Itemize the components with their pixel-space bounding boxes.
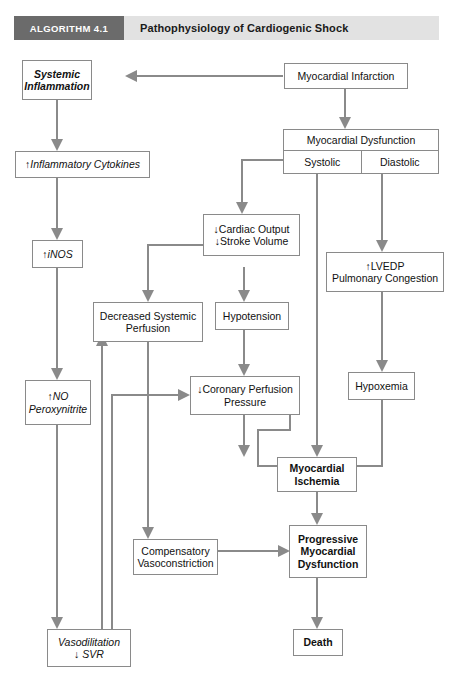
node-hypotension[interactable]: Hypotension xyxy=(215,302,289,330)
node-death[interactable]: Death xyxy=(293,629,343,656)
node-inflammatory-cytokines[interactable]: ↑Inflammatory Cytokines xyxy=(15,151,150,178)
flow-connectors xyxy=(0,0,456,673)
node-line: ↑NO xyxy=(48,390,69,402)
cell-diastolic[interactable]: Diastolic xyxy=(362,151,439,173)
node-line: Myocardial xyxy=(290,462,345,474)
node-line: ↓ SVR xyxy=(74,648,104,660)
node-lvedp-pulmonary-congestion[interactable]: ↑LVEDP Pulmonary Congestion xyxy=(326,252,444,292)
node-myocardial-infarction[interactable]: Myocardial Infarction xyxy=(284,63,408,89)
node-line: Vasodilitation xyxy=(58,636,120,648)
myocardial-dysfunction-title: Myocardial Dysfunction xyxy=(284,130,438,151)
node-line: ↓Cardiac Output xyxy=(214,223,290,235)
node-decreased-systemic-perfusion[interactable]: Decreased Systemic Perfusion xyxy=(93,302,203,342)
node-line: ↓Coronary Perfusion xyxy=(197,383,293,395)
node-line: Pulmonary Congestion xyxy=(332,272,438,284)
node-line: Hypotension xyxy=(223,310,281,322)
node-line: Systemic xyxy=(34,68,80,80)
node-line: Death xyxy=(303,636,332,648)
node-line: ↑LVEDP xyxy=(366,260,405,272)
node-line: ↓Stroke Volume xyxy=(215,235,289,247)
node-progressive-myocardial-dysfunction[interactable]: Progressive Myocardial Dysfunction xyxy=(289,525,367,578)
node-inos[interactable]: ↑iNOS xyxy=(32,240,83,268)
node-line: ↑Inflammatory Cytokines xyxy=(25,158,140,170)
node-line: Inflammation xyxy=(24,80,89,92)
node-line: Myocardial xyxy=(301,545,356,557)
node-line: Vasoconstriction xyxy=(137,557,213,569)
figure-header: ALGORITHM 4.1 Pathophysiology of Cardiog… xyxy=(14,16,439,40)
cell-systolic[interactable]: Systolic xyxy=(284,151,362,173)
node-line: Dysfunction xyxy=(298,558,359,570)
algorithm-figure: ALGORITHM 4.1 Pathophysiology of Cardiog… xyxy=(0,0,456,673)
node-line: Pressure xyxy=(224,396,266,408)
node-myocardial-dysfunction[interactable]: Myocardial Dysfunction Systolic Diastoli… xyxy=(283,129,439,174)
node-line: Compensatory xyxy=(141,545,209,557)
node-line: Myocardial Infarction xyxy=(298,70,395,82)
node-cardiac-output[interactable]: ↓Cardiac Output ↓Stroke Volume xyxy=(203,214,300,256)
node-line: Hypoxemia xyxy=(355,380,408,392)
node-line: Progressive xyxy=(298,533,358,545)
node-line: Peroxynitrite xyxy=(29,403,87,415)
node-line: Decreased Systemic xyxy=(100,310,196,322)
node-line: Ischemia xyxy=(295,475,340,487)
node-systemic-inflammation[interactable]: Systemic Inflammation xyxy=(22,60,92,100)
node-myocardial-ischemia[interactable]: Myocardial Ischemia xyxy=(277,457,357,492)
node-no-peroxynitrite[interactable]: ↑NO Peroxynitrite xyxy=(25,380,91,425)
node-vasodilitation[interactable]: Vasodilitation ↓ SVR xyxy=(47,629,131,667)
node-coronary-perfusion-pressure[interactable]: ↓Coronary Perfusion Pressure xyxy=(190,376,300,415)
node-compensatory-vasoconstriction[interactable]: Compensatory Vasoconstriction xyxy=(133,539,218,575)
node-line: Perfusion xyxy=(126,322,170,334)
node-hypoxemia[interactable]: Hypoxemia xyxy=(348,372,415,400)
figure-title: Pathophysiology of Cardiogenic Shock xyxy=(124,16,439,40)
node-line: ↑iNOS xyxy=(42,248,72,260)
algorithm-number-badge: ALGORITHM 4.1 xyxy=(14,16,124,40)
